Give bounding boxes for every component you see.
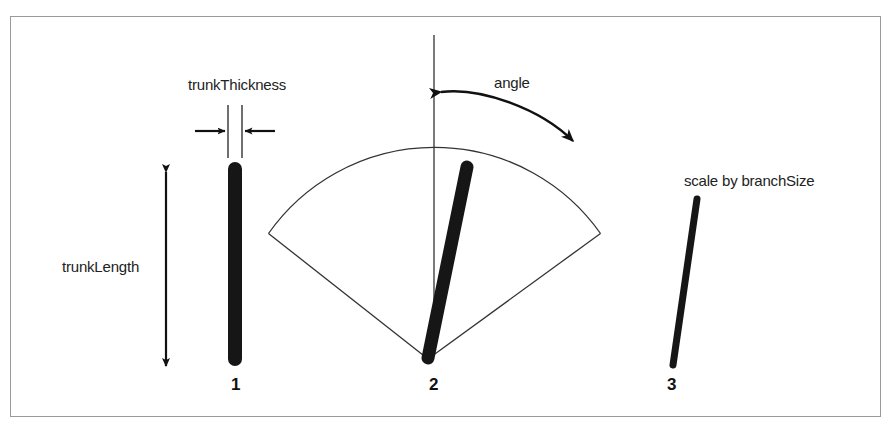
- panel-number-3: 3: [667, 375, 676, 395]
- angle-curved-arrow: [441, 91, 573, 141]
- panel-number-2: 2: [429, 375, 438, 395]
- angle-fan-radius-left: [269, 234, 429, 360]
- diagram-canvas: [11, 17, 880, 416]
- label-branch-size: scale by branchSize: [684, 172, 814, 189]
- label-trunk-length: trunkLength: [62, 258, 139, 275]
- label-trunk-thickness: trunkThickness: [188, 76, 286, 93]
- figure-root: trunkThickness trunkLength angle scale b…: [0, 0, 893, 429]
- scaled-branch-bar: [673, 199, 697, 365]
- label-angle: angle: [494, 74, 530, 91]
- figure-frame: [10, 16, 881, 417]
- panel-number-1: 1: [231, 375, 240, 395]
